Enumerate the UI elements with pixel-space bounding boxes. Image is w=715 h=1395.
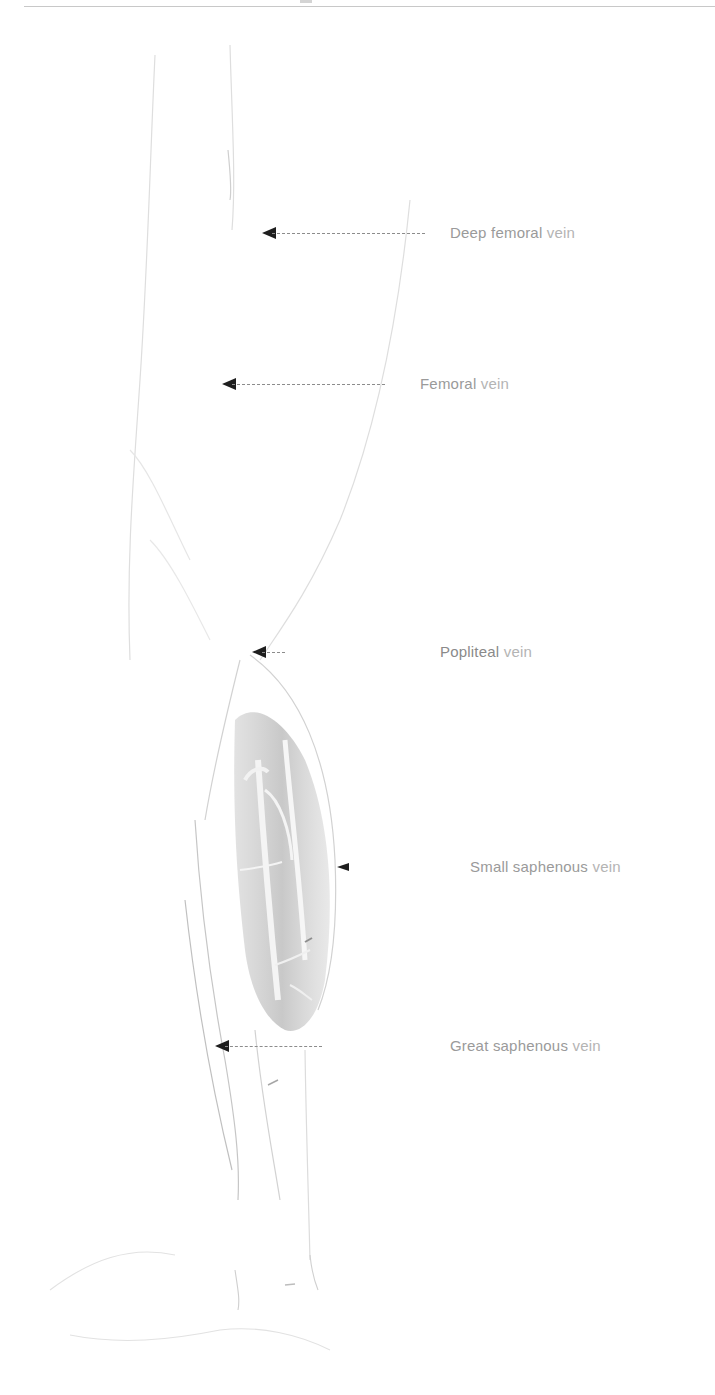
label-suffix: vein	[568, 1037, 601, 1054]
arrowhead-icon	[337, 863, 349, 871]
leg-anatomy-illustration	[0, 0, 715, 1395]
label-text: Popliteal	[440, 643, 499, 660]
label-great-saphenous-vein: Great saphenous vein	[450, 1037, 601, 1055]
leader-line	[225, 1046, 322, 1047]
label-suffix: vein	[476, 375, 509, 392]
label-text: Small saphenous	[470, 858, 588, 875]
label-suffix: vein	[588, 858, 621, 875]
leader-line	[262, 652, 285, 653]
label-text: Deep femoral	[450, 224, 542, 241]
leader-line	[272, 233, 425, 234]
label-suffix: vein	[499, 643, 532, 660]
leader-arrow-great-saphenous	[215, 1040, 322, 1052]
leader-arrow-femoral	[222, 378, 385, 390]
label-popliteal-vein: Popliteal vein	[440, 643, 532, 661]
label-text: Femoral	[420, 375, 476, 392]
leader-arrow-small-saphenous	[337, 861, 352, 873]
label-deep-femoral-vein: Deep femoral vein	[450, 224, 575, 242]
label-text: Great saphenous	[450, 1037, 568, 1054]
leader-arrow-deep-femoral	[262, 227, 425, 239]
leader-arrow-popliteal	[252, 646, 285, 658]
label-small-saphenous-vein: Small saphenous vein	[470, 858, 621, 876]
label-suffix: vein	[542, 224, 575, 241]
leader-line	[232, 384, 385, 385]
label-femoral-vein: Femoral vein	[420, 375, 509, 393]
